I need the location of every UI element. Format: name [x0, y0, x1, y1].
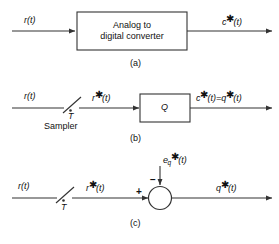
sampler-label: Sampler [44, 122, 78, 131]
panel-a-output-label: c✱(t) [222, 14, 242, 27]
panel-b-sampler-period-label: T [68, 112, 74, 121]
panel-a-input-label: r(t) [24, 16, 36, 25]
panel-c-mid-label: r✱(t) [86, 180, 105, 193]
summing-junction [149, 187, 172, 210]
quantization-error-label: eq✱(t) [163, 152, 187, 166]
analog-to-digital-converter-label: Analog to digital converter [77, 20, 187, 42]
panel-a-caption: (a) [130, 58, 141, 68]
quantizer-block-label: Q [161, 103, 168, 112]
summing-junction-plus-sign: + [136, 187, 142, 197]
panel-b-output-label: c✱(t)=q✱(t) [196, 90, 242, 103]
summing-junction-minus-sign: − [150, 175, 156, 185]
panel-c-output-label: q✱(t) [216, 180, 237, 193]
figure-root: r(t) Analog to digital converter c✱(t) (… [0, 0, 279, 244]
panel-c-sampler-switch [56, 187, 74, 203]
panel-c-sampler-period-label: T [61, 203, 67, 212]
panel-b-input-label: r(t) [24, 92, 36, 101]
panel-c-input-label: r(t) [18, 182, 30, 191]
panel-b-caption: (b) [130, 133, 141, 143]
panel-b-mid-label: r✱(t) [92, 90, 111, 103]
panel-c-caption: (c) [130, 218, 141, 228]
